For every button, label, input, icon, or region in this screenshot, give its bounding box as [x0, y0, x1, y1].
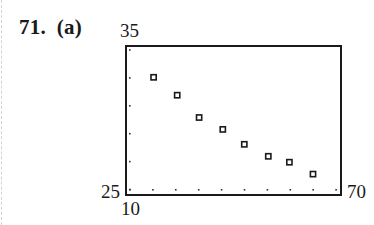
data-point-marker — [310, 172, 315, 177]
x-tick-dot — [244, 189, 246, 191]
data-points — [151, 75, 316, 177]
x-tick-dot — [198, 189, 200, 191]
x-tick-dot — [335, 189, 337, 191]
data-point-marker — [175, 93, 180, 98]
data-point-marker — [287, 160, 292, 165]
scatter-plot — [0, 0, 374, 225]
y-tick-dot — [129, 161, 131, 163]
x-tick-dot — [267, 189, 269, 191]
data-point-marker — [151, 75, 156, 80]
y-tick-dot — [129, 77, 131, 79]
y-tick-dot — [129, 133, 131, 135]
y-tick-dot — [129, 49, 131, 51]
x-tick-dot — [221, 189, 223, 191]
x-tick-dot — [175, 189, 177, 191]
x-tick-dot — [312, 189, 314, 191]
y-tick-dot — [129, 105, 131, 107]
data-point-marker — [197, 115, 202, 120]
y-tick-dot — [129, 189, 131, 191]
y-tick-dots — [129, 49, 131, 190]
graph-frame — [126, 46, 341, 195]
data-point-marker — [242, 142, 247, 147]
x-tick-dot — [152, 189, 154, 191]
x-tick-dots — [129, 189, 337, 191]
data-point-marker — [266, 154, 271, 159]
x-tick-dot — [290, 189, 292, 191]
data-point-marker — [220, 127, 225, 132]
